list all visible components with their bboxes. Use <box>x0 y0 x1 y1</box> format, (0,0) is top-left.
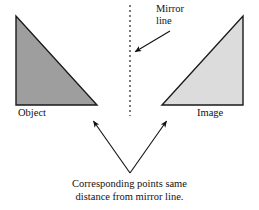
caption-line-1: Corresponding points same <box>0 178 259 191</box>
object-label: Object <box>18 107 46 119</box>
caption-line-2: distance from mirror line. <box>0 191 259 204</box>
image-label: Image <box>197 107 223 119</box>
mirror-line-pointer-arrow <box>135 31 170 52</box>
mirror-line-label: Mirror line <box>156 3 184 28</box>
correspondence-arrow-left <box>93 121 130 173</box>
mirror-reflection-diagram: Mirror line Object Image Corresponding p… <box>0 0 259 210</box>
mirror-line-label-line1: Mirror <box>156 3 184 15</box>
figure-caption: Corresponding points same distance from … <box>0 178 259 204</box>
image-triangle <box>162 16 243 105</box>
object-triangle <box>16 16 97 105</box>
mirror-line-label-line2: line <box>156 15 184 27</box>
correspondence-arrow-right <box>130 121 167 173</box>
